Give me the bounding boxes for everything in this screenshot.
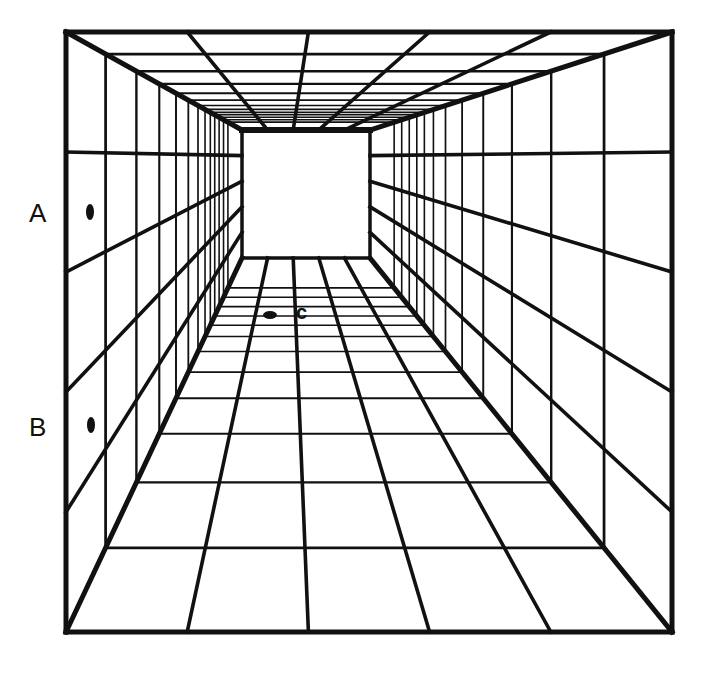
left-wall-row-line bbox=[66, 152, 242, 156]
dot-marker-b bbox=[87, 417, 95, 433]
grid-lines bbox=[66, 32, 672, 632]
left-wall-row-line bbox=[66, 181, 242, 272]
floor-column-line bbox=[187, 258, 267, 632]
left-wall-row-line bbox=[66, 207, 242, 392]
label-c: c bbox=[296, 302, 307, 322]
label-b: B bbox=[29, 414, 46, 440]
right-wall-row-line bbox=[370, 152, 672, 156]
dot-marker-c bbox=[263, 311, 277, 319]
corridor-perspective-drawing bbox=[0, 0, 704, 674]
corner-edge bbox=[66, 32, 242, 130]
corner-edge bbox=[66, 258, 242, 632]
right-wall-row-line bbox=[370, 181, 672, 272]
dot-marker-a bbox=[86, 204, 94, 220]
label-a: A bbox=[29, 200, 46, 226]
right-wall-row-line bbox=[370, 207, 672, 392]
